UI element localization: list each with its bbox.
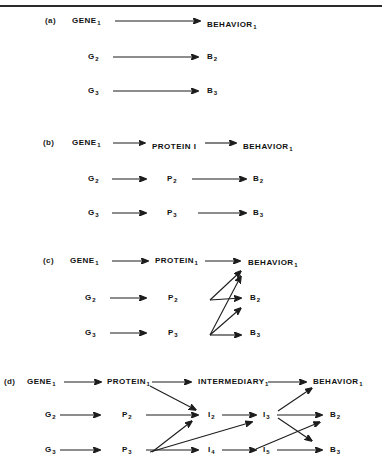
panel-d: (d) GENE1 PROTEIN1 INTERMEDIARY1 BEHAVIO… (0, 365, 382, 470)
edge-i3-b1 (278, 388, 312, 411)
panel-c: (c) GENE1 PROTEIN1 BEHAVIOR1 G2 P2 B2 G3… (0, 240, 382, 365)
edge-p2-b2 (210, 298, 241, 300)
panel-c-edges (0, 240, 382, 365)
panel-d-edges (0, 365, 382, 470)
edge-p3-b2 (210, 308, 241, 335)
panel-b-edges (0, 120, 382, 240)
edge-p3-i3 (150, 422, 252, 452)
edge-p1-i2 (150, 386, 196, 410)
panel-b: (b) GENE1 PROTEIN I BEHAVIOR1 G2 P2 B2 G… (0, 120, 382, 240)
edge-p3-i2 (152, 421, 192, 452)
figure-sheet: (a) GENE1 BEHAVIOR1 G2 B2 G3 B3 (b) GENE… (0, 0, 382, 470)
edge-i5-b2 (256, 422, 320, 449)
panel-a: (a) GENE1 BEHAVIOR1 G2 B2 G3 B3 (0, 0, 382, 120)
panel-a-edges (0, 0, 382, 120)
